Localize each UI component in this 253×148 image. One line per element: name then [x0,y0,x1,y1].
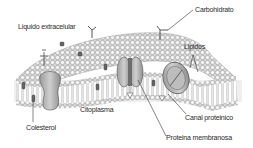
label-cytoplasm: Citoplasma [80,105,113,114]
label-membrane-protein: Proteina membranosa [166,133,232,142]
label-lipids: Lipidos [184,42,205,51]
label-extracellular: Liquido extracelular [18,22,76,31]
label-carbohydrate: Carbohidrato [195,5,234,14]
label-protein-channel: Canal proteinico [185,113,233,122]
carbohydrate-chain-left [88,26,96,38]
leader-carbohydrate [168,10,193,30]
label-cholesterol: Colesterol [26,123,56,132]
